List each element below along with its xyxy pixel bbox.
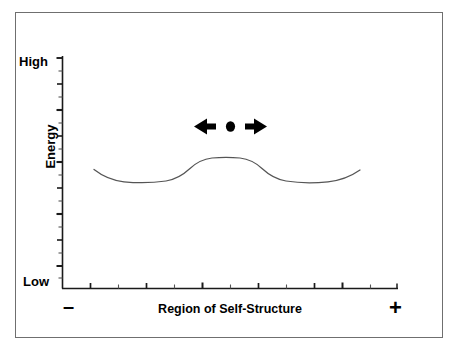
left-arrow-icon [194,119,216,135]
right-arrow-icon [245,119,267,135]
y-axis-low-label: Low [23,274,49,289]
y-axis-high-label: High [19,54,48,69]
y-axis-title: Energy [43,110,58,184]
particle-dot-icon [226,121,235,131]
energy-landscape-figure: High Low Energy Region of Self-Structure… [0,0,458,350]
motion-annotation [194,119,267,135]
x-axis-positive-sign: + [389,299,402,317]
x-axis-negative-sign: – [63,296,74,316]
x-axis-ticks [91,283,398,289]
energy-curve [94,157,360,183]
x-axis-title: Region of Self-Structure [100,302,360,316]
